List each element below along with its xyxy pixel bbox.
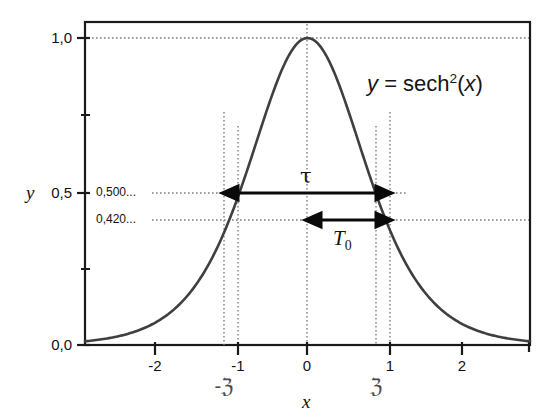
y-tick-label-0-5: 0,5: [24, 185, 72, 200]
equation-function: sech: [403, 71, 449, 96]
equation-lhs: y: [367, 71, 378, 96]
y-tick-label-0-0: 0,0: [24, 337, 72, 352]
y-tick-label-1-0: 1,0: [24, 30, 72, 45]
x-tick-label-two: 2: [442, 358, 482, 373]
x-tick-label-zero: 0: [287, 358, 327, 373]
value-callout-0-500: 0,500...: [96, 186, 136, 198]
x-tick-label-minus-2: -2: [135, 358, 175, 373]
equation-paren-close: ): [476, 71, 483, 96]
equation-sign: =: [384, 71, 397, 96]
equation-paren-open: (: [457, 71, 464, 96]
x-tick-label-one: 1: [370, 358, 410, 373]
x-marker-negative-z: -ℨ: [204, 376, 244, 396]
t0-subscript: 0: [345, 238, 352, 253]
chart-figure: y 1,0 0,5 0,0 0,500... 0,420... -2 -1 0 …: [0, 0, 543, 419]
equation-annotation: y = sech2(x): [367, 72, 483, 95]
x-marker-positive-z: ℨ: [356, 376, 396, 396]
value-callout-0-420: 0,420...: [96, 213, 136, 225]
arrow-label-t0: T0: [333, 228, 352, 253]
t0-letter: T: [333, 226, 345, 250]
equation-argument: x: [465, 71, 476, 96]
x-tick-label-minus-1: -1: [218, 358, 258, 373]
arrow-label-tau: τ: [300, 166, 312, 187]
x-axis-label: x: [302, 392, 310, 411]
